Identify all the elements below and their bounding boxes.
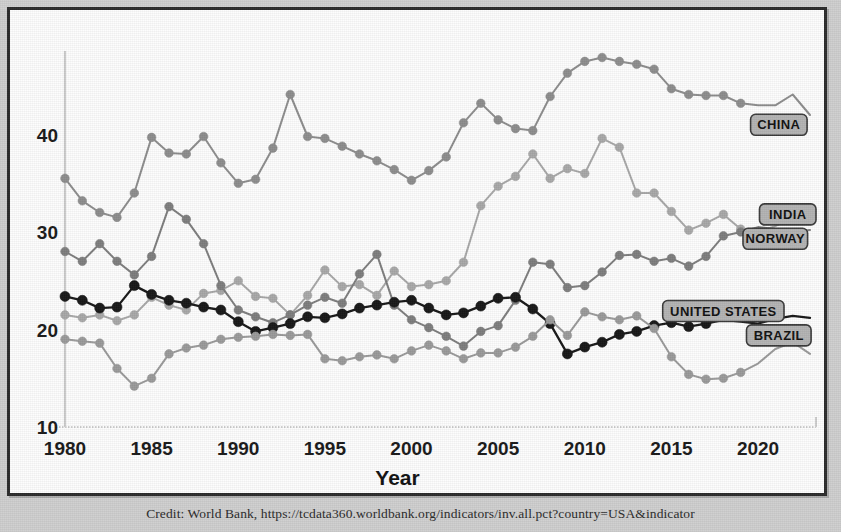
data-point — [372, 300, 382, 310]
data-point — [321, 355, 330, 364]
data-point — [338, 356, 347, 365]
data-point — [373, 250, 382, 259]
data-point — [615, 316, 624, 325]
data-point — [615, 57, 624, 66]
data-point — [199, 132, 208, 141]
legend-pill-label: BRAZIL — [754, 328, 804, 343]
data-point — [321, 293, 330, 302]
data-point — [355, 280, 364, 289]
data-point — [407, 282, 416, 291]
x-tick-label: 2000 — [390, 438, 432, 459]
data-point — [598, 268, 607, 277]
data-point — [598, 313, 607, 322]
data-point — [199, 341, 208, 350]
legend-pill-norway[interactable]: NORWAY — [743, 228, 808, 249]
data-point — [563, 283, 572, 292]
data-point — [581, 57, 590, 66]
data-point — [425, 341, 434, 350]
data-point — [373, 157, 382, 166]
data-point — [130, 189, 139, 198]
data-point — [650, 324, 659, 333]
data-point — [78, 257, 87, 266]
x-tick-label: 2015 — [650, 438, 693, 459]
data-point — [303, 291, 312, 300]
x-tick-label: 2005 — [477, 438, 520, 459]
data-point — [147, 133, 156, 142]
data-point — [425, 166, 434, 175]
data-point — [719, 210, 728, 219]
legend-pill-label: INDIA — [769, 207, 807, 222]
data-point — [95, 339, 104, 348]
data-point — [95, 208, 104, 217]
data-point — [390, 355, 399, 364]
data-point — [355, 270, 364, 279]
data-point — [529, 332, 538, 341]
credit-text: Credit: World Bank, https://tcdata360.wo… — [0, 506, 841, 522]
y-tick-label: 10 — [37, 417, 58, 438]
data-point — [684, 262, 693, 271]
series-line — [65, 138, 810, 320]
data-point — [563, 69, 572, 78]
data-point — [61, 174, 70, 183]
data-point — [650, 257, 659, 266]
data-point — [95, 239, 104, 248]
data-point — [425, 280, 434, 289]
data-point — [182, 150, 191, 159]
data-point — [147, 374, 156, 383]
data-point — [181, 298, 191, 308]
data-point — [424, 303, 434, 313]
data-point — [563, 331, 572, 340]
data-point — [407, 347, 416, 356]
data-point — [130, 311, 139, 320]
data-point — [459, 342, 468, 351]
data-point — [667, 254, 676, 263]
chart-axes — [59, 51, 816, 427]
data-point — [546, 174, 555, 183]
data-point — [390, 165, 399, 174]
data-point — [476, 301, 486, 311]
data-point — [165, 202, 174, 211]
data-point — [355, 150, 364, 159]
data-point — [286, 331, 295, 340]
data-point — [233, 317, 243, 327]
legend-pill-india[interactable]: INDIA — [760, 204, 817, 225]
data-point — [597, 337, 607, 347]
data-point — [303, 132, 312, 141]
data-point — [598, 134, 607, 143]
data-point — [459, 308, 469, 318]
data-point — [129, 281, 139, 291]
data-point — [459, 355, 468, 364]
data-point — [736, 99, 745, 108]
data-point — [234, 277, 243, 286]
data-point — [390, 267, 399, 276]
data-point — [494, 321, 503, 330]
data-point — [477, 349, 486, 358]
data-point — [425, 323, 434, 332]
data-point — [251, 175, 260, 184]
data-point — [113, 364, 122, 373]
data-point — [702, 219, 711, 228]
data-point — [199, 239, 208, 248]
data-point — [477, 327, 486, 336]
data-point — [355, 303, 365, 313]
data-point — [581, 308, 590, 317]
data-point — [511, 343, 520, 352]
data-point — [702, 375, 711, 384]
data-point — [78, 197, 87, 206]
data-point — [511, 124, 520, 133]
legend-pill-brazil[interactable]: BRAZIL — [747, 325, 812, 346]
data-point — [615, 251, 624, 260]
data-point — [269, 294, 278, 303]
data-point — [736, 368, 745, 377]
data-point — [493, 293, 503, 303]
data-point — [251, 332, 260, 341]
data-point — [321, 134, 330, 143]
data-point — [546, 92, 555, 101]
data-point — [581, 169, 590, 178]
legend-pill-china[interactable]: CHINA — [751, 114, 808, 135]
data-point — [650, 65, 659, 74]
data-point — [442, 347, 451, 356]
legend-pill-united-states[interactable]: UNITED STATES — [663, 301, 784, 322]
data-point — [320, 313, 330, 323]
line-chart: 198019851990199520002005201020152020 102… — [10, 10, 824, 493]
